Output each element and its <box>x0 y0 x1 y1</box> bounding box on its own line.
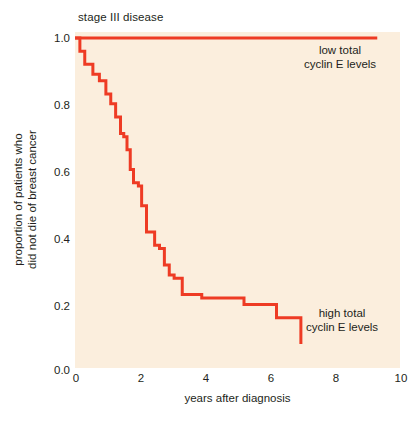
y-axis-label: proportion of patients who did not die o… <box>12 95 39 305</box>
x-tick-label: 2 <box>126 373 156 385</box>
x-tick-label: 8 <box>321 373 351 385</box>
figure-container: stage III disease 1.0 0.8 0.6 0.4 0.2 0.… <box>0 0 420 423</box>
annotation-low-line1: low total <box>280 44 400 58</box>
x-tick-label: 0 <box>61 373 91 385</box>
annotation-high-line2: cyclin E levels <box>282 321 402 335</box>
x-tick-label: 6 <box>256 373 286 385</box>
annotation-high-line1: high total <box>282 307 402 321</box>
y-axis-label-line1: proportion of patients who <box>12 95 26 305</box>
annotation-low-line2: cyclin E levels <box>280 58 400 72</box>
x-axis-label: years after diagnosis <box>75 392 400 404</box>
annotation-high-cyclin-e: high total cyclin E levels <box>282 307 402 334</box>
x-tick-label: 4 <box>191 373 221 385</box>
y-axis-label-line2: did not die of breast cancer <box>25 95 39 305</box>
x-tick-label: 10 <box>386 373 416 385</box>
annotation-low-cyclin-e: low total cyclin E levels <box>280 44 400 71</box>
